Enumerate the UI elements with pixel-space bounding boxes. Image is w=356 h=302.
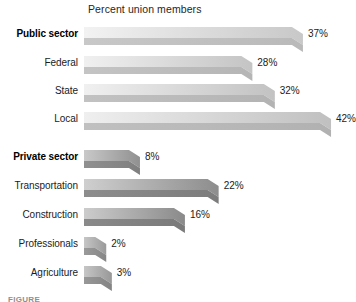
bar-value-label: 8% — [145, 151, 159, 163]
bar-value-label: 16% — [190, 209, 210, 221]
bar-category-label: Transportation — [0, 180, 78, 192]
bar-front-face — [84, 190, 219, 204]
bar-category-label: Federal — [0, 57, 78, 69]
bar-shape — [84, 237, 108, 259]
bar-row: Federal28% — [0, 53, 341, 79]
bar-category-label: State — [0, 85, 78, 97]
bar-front-face — [84, 123, 331, 137]
bar-value-label: 37% — [308, 28, 328, 40]
bar-category-label: Construction — [0, 209, 78, 221]
bar-shape — [84, 266, 114, 288]
bar-row: Local42% — [0, 109, 341, 135]
bar-category-label: Private sector — [0, 151, 78, 163]
bar-front-face — [84, 219, 185, 233]
bar-front-face — [84, 161, 140, 175]
bar-front-face — [84, 38, 303, 52]
bar-category-label: Agriculture — [0, 267, 78, 279]
bar-row: Private sector8% — [0, 147, 341, 173]
chart-title: Percent union members — [88, 3, 202, 15]
bar-shape — [84, 208, 187, 230]
figure-caption: FIGURE — [8, 295, 40, 302]
bar-value-label: 22% — [224, 180, 244, 192]
bar-value-label: 42% — [336, 113, 356, 125]
bar-shape — [84, 84, 277, 106]
bar-value-label: 3% — [117, 267, 131, 279]
bar-row: Transportation22% — [0, 176, 341, 202]
bar-shape — [84, 27, 305, 49]
bar-category-label: Public sector — [0, 28, 78, 40]
bar-row: State32% — [0, 81, 341, 107]
bar-value-label: 32% — [280, 85, 300, 97]
bar-category-label: Local — [0, 113, 78, 125]
bar-shape — [84, 179, 221, 201]
bar-row: Professionals2% — [0, 234, 341, 260]
bar-front-face — [84, 67, 252, 81]
bar-row: Public sector37% — [0, 24, 341, 50]
bar-value-label: 28% — [257, 57, 277, 69]
bar-front-face — [84, 95, 275, 109]
bar-shape — [84, 150, 142, 172]
bar-value-label: 2% — [111, 238, 125, 250]
bar-shape — [84, 56, 254, 78]
bar-shape — [84, 112, 333, 134]
bar-row: Agriculture3% — [0, 263, 341, 289]
bar-row: Construction16% — [0, 205, 341, 231]
bar-category-label: Professionals — [0, 238, 78, 250]
